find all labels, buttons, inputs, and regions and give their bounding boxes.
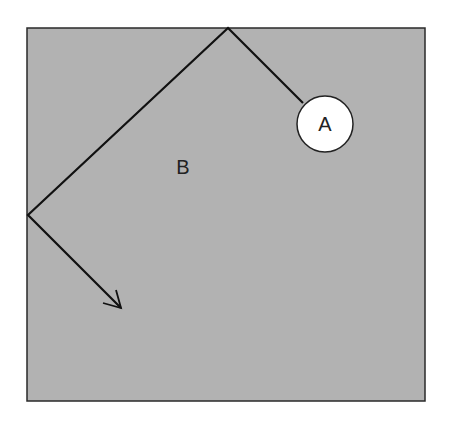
region-b-label: B bbox=[176, 156, 189, 178]
node-a-label: A bbox=[318, 113, 332, 135]
region-box bbox=[27, 28, 425, 401]
diagram-canvas: A B bbox=[0, 0, 450, 424]
